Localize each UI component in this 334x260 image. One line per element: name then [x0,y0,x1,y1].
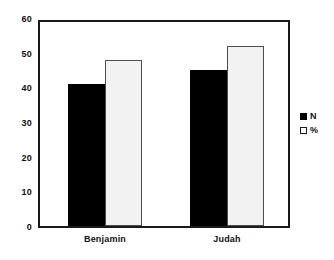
x-tick-label-benjamin: Benjamin [60,234,150,245]
legend-label-n: N [310,112,317,121]
legend-item-pct: % [300,124,334,136]
open-square-icon [300,127,307,134]
plot-area [38,20,290,228]
legend: N % [300,110,334,138]
filled-square-icon [300,113,307,120]
y-tick-label: 10 [0,188,32,197]
y-tick-label: 20 [0,154,32,163]
bar-benjamin-pct [105,60,142,226]
y-tick-label: 60 [0,15,32,24]
y-tick-label: 0 [0,223,32,232]
legend-item-n: N [300,110,334,122]
legend-label-pct: % [310,126,318,135]
bar-chart: 60 50 40 30 20 10 0 Benjamin Judah N % [0,0,334,260]
bar-judah-n [190,70,227,226]
y-tick-label: 50 [0,50,32,59]
bar-judah-pct [227,46,264,226]
x-tick-label-judah: Judah [182,234,272,245]
y-tick-label: 30 [0,119,32,128]
y-tick-label: 40 [0,84,32,93]
bar-benjamin-n [68,84,105,226]
y-axis: 60 50 40 30 20 10 0 [0,0,34,260]
